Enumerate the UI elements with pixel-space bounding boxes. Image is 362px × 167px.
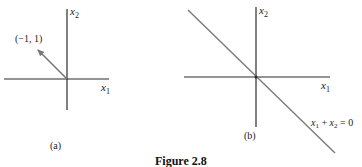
figure-caption: Figure 2.8 bbox=[155, 154, 207, 167]
panel-b-line-x1-plus-x2-eq-0 bbox=[188, 10, 335, 153]
panel-b-origin-dot bbox=[255, 76, 258, 79]
panel-a-vector-arrow bbox=[38, 50, 67, 79]
panel-b-x2-axis-label: x2 bbox=[258, 4, 268, 19]
panel-b-caption: (b) bbox=[244, 130, 256, 142]
panel-a-x1-axis-label: x1 bbox=[100, 81, 110, 96]
figure-canvas: x2 x1 (−1, 1) (a) x2 x1 x1 + x2 = 0 (b) … bbox=[0, 0, 362, 167]
panel-a: x2 x1 (−1, 1) (a) bbox=[4, 5, 110, 152]
panel-b-line-equation-label: x1 + x2 = 0 bbox=[310, 117, 353, 130]
panel-a-x2-axis-label: x2 bbox=[69, 5, 79, 20]
panel-b-x1-axis-label: x1 bbox=[320, 79, 330, 94]
panel-a-vector-label: (−1, 1) bbox=[15, 33, 42, 45]
panel-a-caption: (a) bbox=[50, 140, 61, 152]
panel-b: x2 x1 x1 + x2 = 0 (b) bbox=[184, 4, 353, 153]
